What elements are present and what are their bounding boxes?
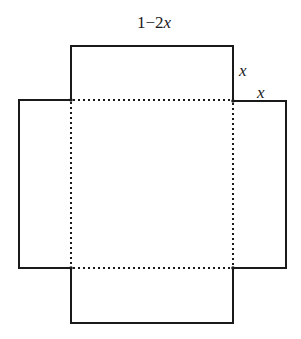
corner-dots [69, 98, 235, 270]
fold-lines [71, 100, 233, 268]
top-length-prefix: 1−2 [137, 13, 164, 32]
net-outline [19, 46, 286, 323]
corner-dot [231, 266, 235, 270]
top-length-label: 1−2x [137, 14, 171, 31]
box-net-diagram: 1−2x x x [0, 0, 301, 339]
corner-dot [231, 99, 235, 103]
corner-dot [69, 266, 73, 270]
flap-height-label: x [239, 62, 247, 79]
top-length-variable: x [164, 13, 172, 32]
box-net-figure [0, 0, 301, 339]
flap-width-label: x [257, 84, 265, 101]
corner-dot [69, 98, 73, 102]
